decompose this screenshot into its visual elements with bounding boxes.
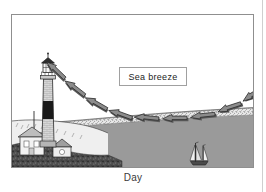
illustration-frame: Sea breeze xyxy=(11,14,254,168)
lighthouse-band xyxy=(43,101,54,119)
sea-breeze-label: Sea breeze xyxy=(119,67,187,86)
sea-breeze-figure: Sea breeze Day xyxy=(0,0,266,192)
page-edge-rule xyxy=(262,0,263,192)
figure-caption: Day xyxy=(0,172,266,183)
scene-illustration xyxy=(12,15,253,167)
sea-breeze-label-text: Sea breeze xyxy=(128,72,177,82)
